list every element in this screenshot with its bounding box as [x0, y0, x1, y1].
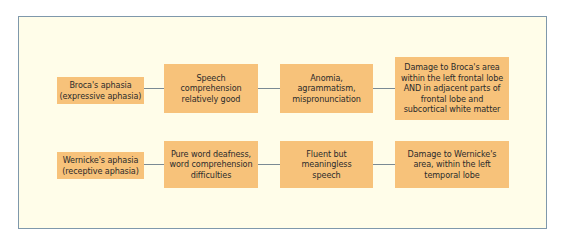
broca-comprehension-box: Speech comprehension relatively good — [164, 64, 258, 113]
wernicke-comprehension-label: Pure word deafness, word comprehension d… — [169, 149, 252, 181]
connector-line — [258, 164, 280, 165]
wernicke-symptoms-label: Fluent but meaningless speech — [301, 149, 351, 181]
broca-damage-label: Damage to Broca's area within the left f… — [401, 62, 503, 115]
connector-line — [258, 88, 280, 89]
broca-symptoms-label: Anomia, agrammatism, mispronunciation — [292, 73, 361, 105]
connector-line — [144, 88, 164, 89]
wernicke-damage-box: Damage to Wernicke's area, within the le… — [395, 141, 509, 188]
broca-damage-box: Damage to Broca's area within the left f… — [395, 57, 509, 120]
broca-aphasia-label: Broca's aphasia (expressive aphasia) — [60, 80, 142, 101]
connector-line — [144, 164, 164, 165]
wernicke-aphasia-box: Wernicke's aphasia (receptive aphasia) — [57, 152, 144, 179]
connector-line — [373, 88, 395, 89]
broca-comprehension-label: Speech comprehension relatively good — [180, 73, 241, 105]
wernicke-comprehension-box: Pure word deafness, word comprehension d… — [164, 141, 258, 188]
wernicke-symptoms-box: Fluent but meaningless speech — [280, 141, 373, 188]
broca-symptoms-box: Anomia, agrammatism, mispronunciation — [280, 64, 373, 113]
broca-aphasia-box: Broca's aphasia (expressive aphasia) — [57, 77, 144, 104]
diagram-frame — [18, 16, 547, 229]
connector-line — [373, 164, 395, 165]
wernicke-damage-label: Damage to Wernicke's area, within the le… — [408, 149, 497, 181]
wernicke-aphasia-label: Wernicke's aphasia (receptive aphasia) — [62, 155, 139, 176]
